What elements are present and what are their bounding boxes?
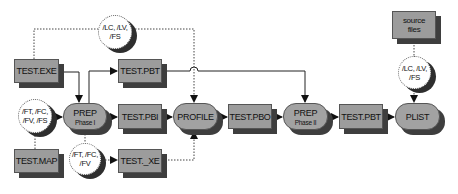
file-box-test-pbo: TEST.PBO [228,104,272,129]
process-profile: PROFILE [173,103,218,130]
file-label: TEST.MAP [16,156,58,166]
file-label: TEST.EXE [16,66,56,76]
file-label-line2: files [408,25,421,34]
file-label: TEST.PBT [120,66,160,76]
file-box-source-files: source files [392,11,436,39]
edge-testpbt-prep2 [162,67,305,102]
options-line2: /FV [80,159,91,168]
options-circle-top: /LC, /LV, /FS [98,15,132,49]
options-circle-bottom: /FT, /FC, /FV [69,143,101,175]
file-label: TEST.PBO [229,112,270,122]
options-circle-right: /LC, /LV, /FS [398,56,431,89]
process-prep-phase-2: PREP Phase II [283,103,328,130]
process-prep-phase-1: PREP Phase I [63,103,107,130]
process-label: PLIST [406,112,430,122]
options-line1: /LC, /LV, [402,64,427,73]
file-label: TEST._XE [120,156,159,166]
file-box-test-xe: TEST._XE [118,149,162,173]
options-line1: /LC, /LV, [102,23,127,32]
process-label: PREP [294,108,317,118]
file-label: TEST.PBI [122,112,159,122]
file-box-test-pbi: TEST.PBI [118,104,162,129]
edge-testexe-prep1 [59,72,79,102]
options-circle-left: /FT, /FC, /FV, /FS [18,99,52,133]
process-sublabel: Phase II [295,119,316,126]
options-line1: /FT, /FC, [72,150,98,159]
process-sublabel: Phase I [75,119,95,126]
file-box-test-pbt-top: TEST.PBT [118,59,162,83]
file-box-test-map: TEST.MAP [14,149,59,173]
options-line1: /FT, /FC, [22,107,48,116]
process-label: PREP [73,108,96,118]
file-box-test-exe: TEST.EXE [14,59,59,83]
file-label-line1: source [403,16,425,25]
process-label: PROFILE [177,112,213,122]
file-label: TEST.PBT [341,112,381,122]
process-plist: PLIST [395,103,440,130]
connector-layer [0,0,458,194]
file-box-test-pbt-right: TEST.PBT [339,104,383,129]
edge-prep1-testpbt [89,71,117,103]
options-line2: /FV, /FS [23,116,47,125]
options-line2: /FS [110,32,121,41]
options-line2: /FS [409,73,420,82]
